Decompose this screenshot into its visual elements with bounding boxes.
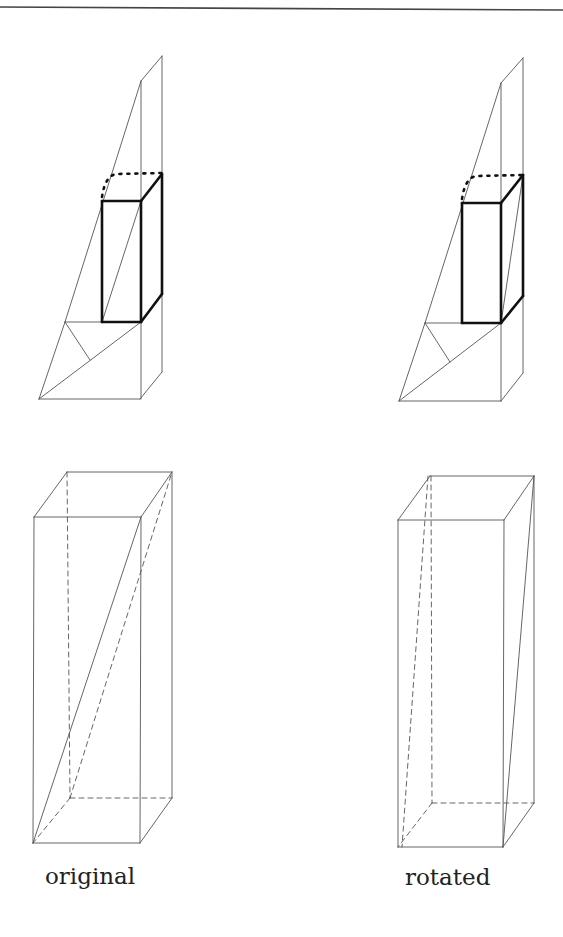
edge-line <box>140 798 172 843</box>
edge-line <box>501 373 523 401</box>
edge-line <box>503 803 534 847</box>
edge-line <box>33 517 34 843</box>
hidden-edge-line <box>70 472 172 798</box>
edge-line <box>141 56 162 81</box>
original-wedge-figure <box>39 56 162 399</box>
top-rule-divider <box>0 7 563 10</box>
caption-original: original <box>45 865 135 888</box>
hidden-edge-line <box>431 476 432 803</box>
edge-line <box>39 322 65 399</box>
hidden-edge-line <box>33 798 70 843</box>
edge-line <box>141 472 172 517</box>
hidden-edge-line <box>398 803 432 847</box>
edge-line <box>503 476 534 847</box>
edge-line <box>65 322 90 360</box>
edge-line <box>399 323 425 401</box>
original-prism-figure <box>33 472 172 843</box>
hidden-edge-line <box>402 476 428 847</box>
highlight-edge-line <box>141 174 162 201</box>
edge-line <box>102 201 141 322</box>
edge-line <box>501 58 523 83</box>
rotated-prism-figure <box>398 476 534 847</box>
highlight-edge-line <box>141 294 162 322</box>
hidden-edge-line <box>67 472 70 798</box>
edge-line <box>33 517 141 843</box>
caption-rotated: rotated <box>405 866 490 889</box>
edge-line <box>140 517 141 843</box>
diagram-canvas <box>0 0 563 937</box>
edge-line <box>39 322 141 399</box>
edge-line <box>425 323 450 362</box>
edge-line <box>503 520 504 847</box>
edge-line <box>34 472 67 517</box>
edge-line <box>140 372 162 399</box>
edge-line <box>504 476 534 520</box>
rotated-wedge-figure <box>399 58 523 401</box>
